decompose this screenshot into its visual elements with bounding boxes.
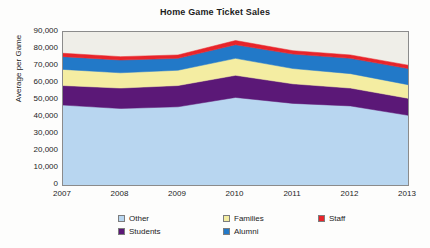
legend-item-other: Other xyxy=(118,214,149,223)
legend-label-alumni: Alumni xyxy=(234,227,258,236)
x-tick-label: 2011 xyxy=(270,189,314,199)
legend-swatch-other xyxy=(118,215,125,222)
legend-label-families: Families xyxy=(234,214,264,223)
x-tick-label: 2013 xyxy=(385,189,429,199)
area-series-other xyxy=(63,97,408,185)
y-tick-label: 70,000 xyxy=(4,61,58,69)
x-tick-label: 2012 xyxy=(328,189,372,199)
y-tick-label: 60,000 xyxy=(4,78,58,86)
y-tick-label: 40,000 xyxy=(4,112,58,120)
chart-container: Home Game Ticket Sales Average per Game … xyxy=(0,0,430,248)
legend-label-staff: Staff xyxy=(329,214,345,223)
legend-label-students: Students xyxy=(129,227,161,236)
x-tick-label: 2007 xyxy=(40,189,84,199)
legend-swatch-families xyxy=(223,215,230,222)
legend-swatch-students xyxy=(118,228,125,235)
x-axis-tick-labels: 2007200820092010201120122013 xyxy=(0,189,430,203)
legend-item-alumni: Alumni xyxy=(223,227,258,236)
y-tick-label: 30,000 xyxy=(4,129,58,137)
legend-item-staff: Staff xyxy=(318,214,345,223)
legend-swatch-alumni xyxy=(223,228,230,235)
y-tick-label: 50,000 xyxy=(4,95,58,103)
chart-legend: Other Students Families Alumni Staff xyxy=(118,214,378,242)
legend-item-families: Families xyxy=(223,214,264,223)
plot-area xyxy=(62,31,409,186)
x-tick-label: 2009 xyxy=(155,189,199,199)
y-axis-tick-labels: 010,00020,00030,00040,00050,00060,00070,… xyxy=(0,0,58,248)
y-tick-label: 90,000 xyxy=(4,27,58,35)
stacked-area-plot xyxy=(63,32,408,185)
legend-swatch-staff xyxy=(318,215,325,222)
y-tick-label: 20,000 xyxy=(4,146,58,154)
y-tick-label: 10,000 xyxy=(4,163,58,171)
y-tick-label: 0 xyxy=(4,180,58,188)
x-tick-label: 2010 xyxy=(213,189,257,199)
x-tick-label: 2008 xyxy=(98,189,142,199)
y-tick-label: 80,000 xyxy=(4,44,58,52)
chart-title: Home Game Ticket Sales xyxy=(0,7,430,17)
legend-label-other: Other xyxy=(129,214,149,223)
legend-item-students: Students xyxy=(118,227,161,236)
